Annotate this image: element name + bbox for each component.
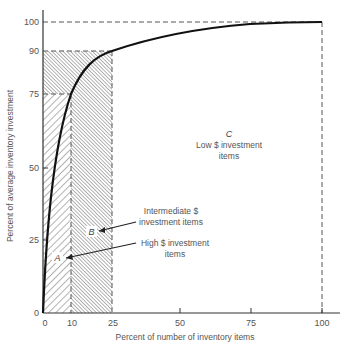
svg-text:100: 100 (314, 318, 329, 328)
svg-text:25: 25 (108, 318, 118, 328)
svg-text:C: C (226, 129, 233, 139)
y-axis-title: Percent of average inventory investment (5, 89, 15, 242)
x-tick-labels: 0 10 25 50 75 100 (42, 318, 329, 328)
x-axis-title: Percent of number of inventory items (116, 332, 255, 342)
abc-analysis-chart: 0 25 50 75 90 100 0 10 25 50 75 100 Perc… (0, 0, 351, 344)
svg-text:50: 50 (175, 318, 185, 328)
svg-text:50: 50 (29, 163, 39, 173)
svg-text:B: B (88, 227, 94, 237)
svg-text:Low $ investment: Low $ investment (196, 140, 263, 150)
svg-text:A: A (53, 253, 60, 263)
svg-text:90: 90 (29, 46, 39, 56)
region-c-annotation: C Low $ investment items (196, 129, 263, 161)
svg-text:items: items (219, 151, 239, 161)
svg-text:items: items (165, 249, 185, 259)
svg-text:0: 0 (42, 318, 47, 328)
y-tick-labels: 0 25 50 75 90 100 (24, 17, 39, 318)
svg-text:100: 100 (24, 17, 39, 27)
svg-text:High $ investment: High $ investment (141, 238, 210, 248)
svg-text:10: 10 (67, 318, 77, 328)
svg-text:75: 75 (246, 318, 256, 328)
svg-text:investment items: investment items (139, 217, 203, 227)
svg-text:75: 75 (29, 89, 39, 99)
region-a-hatch (43, 94, 71, 313)
svg-text:Intermediate $: Intermediate $ (144, 206, 199, 216)
svg-text:25: 25 (29, 235, 39, 245)
svg-text:0: 0 (34, 308, 39, 318)
